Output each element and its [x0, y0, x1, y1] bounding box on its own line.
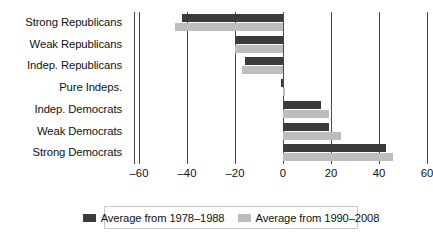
legend-label: Average from 1990–2008 [256, 212, 380, 224]
legend: Average from 1978–1988Average from 1990–… [104, 206, 358, 229]
legend-item: Average from 1978–1988 [83, 212, 225, 224]
legend-swatch-icon [83, 214, 96, 222]
bar-row [139, 12, 427, 34]
bar-series1 [182, 14, 283, 22]
x-tick-label: –60 [130, 167, 149, 179]
category-label: Indep. Democrats [0, 99, 128, 121]
legend-item: Average from 1990–2008 [238, 212, 380, 224]
bar-rows [139, 12, 427, 164]
bar-series1 [283, 101, 321, 109]
bar-series2 [283, 110, 329, 118]
gridline [427, 12, 428, 164]
bar-row [139, 77, 427, 99]
x-tick-label: 0 [280, 167, 286, 179]
y-axis-line [134, 12, 135, 164]
bar-series1 [281, 79, 283, 87]
bar-series2 [283, 132, 341, 140]
x-tick-label: –40 [178, 167, 197, 179]
bar-row [139, 55, 427, 77]
x-tick-label: 60 [421, 167, 433, 179]
bar-series1 [245, 57, 283, 65]
category-axis-labels: Strong RepublicansWeak RepublicansIndep.… [0, 12, 128, 164]
category-label: Strong Republicans [0, 12, 128, 34]
x-axis-tick-labels: –60–40–200204060 [139, 167, 427, 183]
x-tick-label: 20 [325, 167, 338, 179]
bar-row [139, 142, 427, 164]
bar-series1 [283, 123, 329, 131]
bar-series2 [283, 88, 285, 96]
legend-label: Average from 1978–1988 [101, 212, 225, 224]
x-tick-label: 40 [373, 167, 386, 179]
category-label: Indep. Republicans [0, 55, 128, 77]
bar-series2 [242, 66, 283, 74]
category-label: Weak Democrats [0, 121, 128, 143]
bar-series1 [283, 144, 386, 152]
x-tick-label: –20 [226, 167, 245, 179]
bar-series2 [283, 153, 393, 161]
bar-series2 [175, 23, 283, 31]
plot-area [139, 12, 427, 164]
bar-row [139, 121, 427, 143]
bar-row [139, 99, 427, 121]
bar-series2 [235, 45, 283, 53]
legend-swatch-icon [238, 214, 251, 222]
bar-series1 [235, 36, 283, 44]
category-label: Weak Republicans [0, 34, 128, 56]
category-label: Strong Democrats [0, 142, 128, 164]
bar-row [139, 34, 427, 56]
category-label: Pure Indeps. [0, 77, 128, 99]
